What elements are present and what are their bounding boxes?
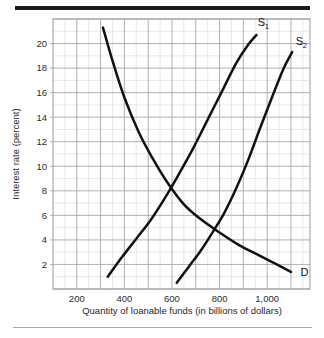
x-tick-label: 800	[212, 293, 228, 304]
figure-container: 2004006008001,000 2468101214161820 DS1S2…	[0, 0, 324, 338]
x-tick-label: 400	[116, 293, 132, 304]
x-axis-tick-labels: 2004006008001,000	[69, 293, 279, 304]
y-tick-label: 6	[42, 210, 47, 221]
y-tick-label: 2	[42, 259, 47, 270]
supply-1-curve-label-subscript: 1	[265, 22, 269, 31]
supply-2-curve-label-subscript: 2	[303, 41, 307, 50]
y-axis-tick-labels: 2468101214161820	[36, 38, 53, 270]
x-tick-label: 1,000	[255, 293, 279, 304]
y-tick-label: 10	[36, 161, 47, 172]
x-axis-title: Quantity of loanable funds (in billions …	[82, 305, 282, 316]
chart-plot-wrapper: 2004006008001,000 2468101214161820 DS1S2…	[0, 0, 324, 338]
y-tick-label: 4	[42, 234, 47, 245]
y-tick-label: 18	[36, 62, 47, 73]
y-tick-label: 8	[42, 185, 47, 196]
y-tick-label: 12	[36, 136, 47, 147]
y-tick-label: 16	[36, 87, 47, 98]
demand-curve-label: D	[300, 266, 308, 278]
y-axis-title: Interest rate (percent)	[10, 108, 21, 199]
y-tick-label: 20	[36, 38, 47, 49]
loanable-funds-chart: 2004006008001,000 2468101214161820 DS1S2…	[0, 0, 324, 338]
x-tick-label: 200	[69, 293, 85, 304]
x-tick-label: 600	[164, 293, 180, 304]
demand-curve-label-text: D	[300, 266, 308, 278]
bottom-divider-rule	[13, 327, 312, 328]
y-tick-label: 14	[36, 112, 47, 123]
